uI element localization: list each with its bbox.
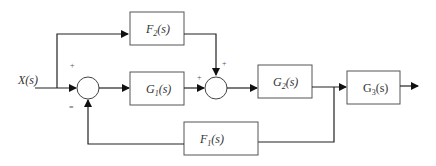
block-diagram: X(s) + = F2(s) G1(s) + + G2(s) G3(s) F1(… <box>0 0 436 166</box>
block-f1-label: F1(s) <box>199 132 224 148</box>
block-g3-label: G3(s) <box>363 81 388 97</box>
f1-to-sum1 <box>88 100 184 144</box>
sum2-plus-sign-left: + <box>197 73 202 82</box>
summing-junction-2 <box>205 77 227 99</box>
block-g1-label: G1(s) <box>146 82 171 98</box>
summing-junction-1 <box>77 77 99 99</box>
sum2-plus-sign-top: + <box>222 59 227 68</box>
sum1-minus-sign: = <box>69 103 74 112</box>
sum1-plus-sign: + <box>70 61 75 70</box>
block-g2-label: G2(s) <box>273 75 298 91</box>
input-label: X(s) <box>17 73 38 87</box>
f2-to-sum2 <box>184 34 216 75</box>
block-f2-label: F2(s) <box>145 22 170 38</box>
